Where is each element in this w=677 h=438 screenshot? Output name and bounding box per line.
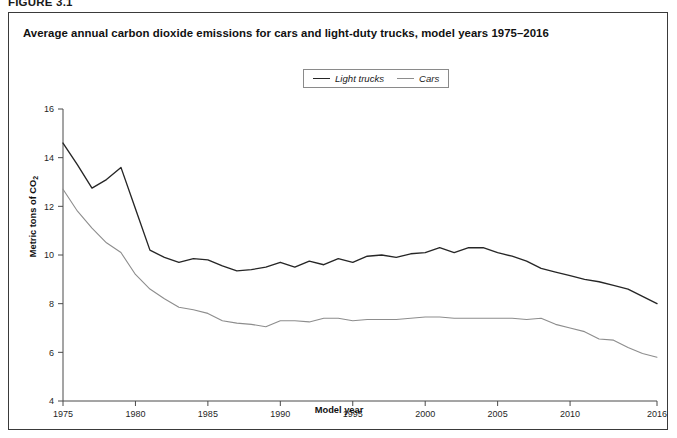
- series-line-cars: [63, 189, 657, 357]
- y-axis-tick-label: 8: [49, 299, 54, 309]
- figure-number: FIGURE 3.1: [8, 0, 73, 8]
- y-axis-title-subscript: 2: [32, 176, 39, 180]
- figure-frame: Average annual carbon dioxide emissions …: [8, 12, 668, 430]
- y-axis-title-text: Metric tons of CO: [28, 180, 38, 257]
- plot-area: 4681012141619751980198519901995200020052…: [9, 13, 669, 431]
- line-chart: 4681012141619751980198519901995200020052…: [9, 13, 669, 431]
- y-axis-tick-label: 6: [49, 348, 54, 358]
- y-axis-tick-label: 14: [44, 153, 54, 163]
- y-axis-tick-label: 10: [44, 250, 54, 260]
- x-axis-title: Model year: [9, 405, 669, 415]
- y-axis-title: Metric tons of CO2: [28, 157, 39, 277]
- figure-page: FIGURE 3.1 Average annual carbon dioxide…: [0, 0, 677, 438]
- series-line-light-trucks: [63, 143, 657, 304]
- y-axis-tick-label: 12: [44, 202, 54, 212]
- y-axis-tick-label: 16: [44, 104, 54, 114]
